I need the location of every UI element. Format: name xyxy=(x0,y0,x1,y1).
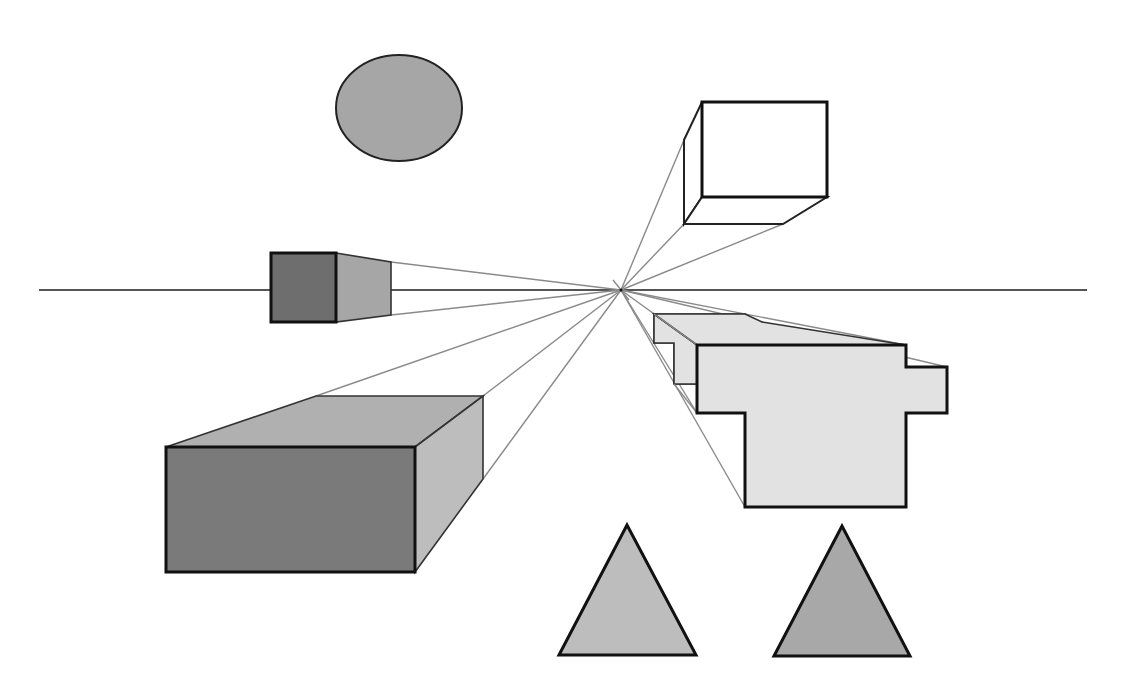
vanishing-point xyxy=(620,289,623,292)
triangle-left xyxy=(559,525,696,655)
small-cube-front xyxy=(271,253,336,322)
floating-cube-bottom-face xyxy=(684,197,827,224)
large-box xyxy=(166,396,483,572)
floating-cube-front xyxy=(702,102,827,197)
circle-shape xyxy=(336,55,462,161)
floating-cube xyxy=(684,102,827,224)
small-cube xyxy=(271,253,391,322)
small-cube-side xyxy=(336,253,391,322)
cross-shape xyxy=(654,314,947,507)
perspective-diagram xyxy=(0,0,1129,692)
cross-front-face xyxy=(697,345,947,507)
large-box-front xyxy=(166,447,415,572)
triangle-right xyxy=(774,526,910,656)
